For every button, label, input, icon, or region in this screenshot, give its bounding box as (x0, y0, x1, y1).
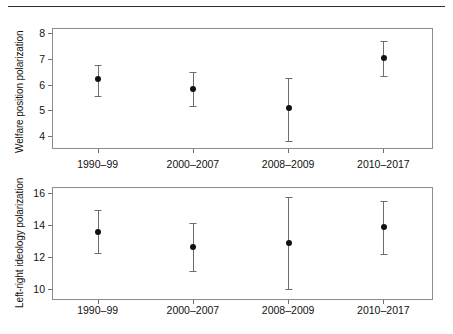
plot-area-top (52, 28, 433, 149)
data-point-marker (190, 86, 196, 92)
y-tick-label: 10 (33, 284, 45, 294)
error-bar-cap (95, 253, 102, 254)
y-tick-mark (48, 257, 52, 258)
data-point-marker (286, 240, 292, 246)
error-bar-cap (95, 96, 102, 97)
error-bar-cap (190, 223, 197, 224)
data-point-marker (381, 224, 387, 230)
y-tick-mark (48, 225, 52, 226)
error-bar-cap (285, 289, 292, 290)
y-tick-mark (48, 59, 52, 60)
error-bar-cap (380, 41, 387, 42)
y-axis-label-top: Welfare position polarization (14, 30, 25, 153)
x-tick-label: 2008–2009 (262, 304, 315, 316)
top-horizontal-rule (8, 6, 445, 7)
y-tick-label: 5 (39, 105, 45, 115)
y-tick-label: 12 (33, 252, 45, 262)
panel-welfare-position-polarization: Welfare position polarization 456781990–… (0, 18, 453, 158)
y-tick-label: 16 (33, 188, 45, 198)
x-tick-label: 2000–2007 (167, 304, 220, 316)
y-tick-label: 8 (39, 28, 45, 38)
y-tick-label: 4 (39, 131, 45, 141)
data-point-marker (190, 244, 196, 250)
x-tick-label: 1990–99 (77, 158, 118, 170)
error-bar-cap (380, 76, 387, 77)
x-tick-mark (98, 149, 99, 153)
error-bar-cap (190, 72, 197, 73)
y-tick-label: 14 (33, 220, 45, 230)
error-bar-cap (190, 106, 197, 107)
y-tick-mark (48, 85, 52, 86)
panel-left-right-ideology-polarization: Left-right ideology polarization 1012141… (0, 180, 453, 316)
error-bar-cap (95, 65, 102, 66)
plot-area-bottom (52, 187, 433, 300)
y-tick-mark (48, 289, 52, 290)
y-axis-label-bottom: Left-right ideology polarization (14, 178, 25, 308)
error-bar-cap (95, 210, 102, 211)
x-tick-label: 1990–99 (77, 304, 118, 316)
y-tick-mark (48, 33, 52, 34)
figure: Welfare position polarization 456781990–… (0, 0, 453, 334)
error-bar-cap (190, 271, 197, 272)
y-tick-label: 6 (39, 80, 45, 90)
x-tick-label: 2008–2009 (262, 158, 315, 170)
error-bar-cap (285, 197, 292, 198)
data-point-marker (286, 105, 292, 111)
data-point-marker (95, 229, 101, 235)
error-bar-cap (285, 78, 292, 79)
y-tick-mark (48, 136, 52, 137)
y-tick-label: 7 (39, 54, 45, 64)
error-bar-cap (380, 254, 387, 255)
y-tick-mark (48, 110, 52, 111)
x-tick-label: 2010–2017 (357, 304, 410, 316)
x-tick-mark (288, 149, 289, 153)
error-bar-cap (380, 201, 387, 202)
y-tick-mark (48, 193, 52, 194)
x-tick-label: 2010–2017 (357, 158, 410, 170)
x-tick-label: 2000–2007 (167, 158, 220, 170)
x-tick-mark (193, 149, 194, 153)
data-point-marker (381, 55, 387, 61)
error-bar-cap (285, 141, 292, 142)
x-tick-mark (383, 149, 384, 153)
data-point-marker (95, 76, 101, 82)
